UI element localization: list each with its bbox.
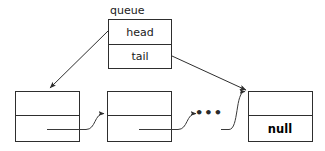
queue-tail-field-label: tail (131, 50, 148, 63)
queue-struct-name: queue (110, 4, 145, 17)
head-pointer-arrow (50, 31, 108, 88)
node-first-box (16, 92, 80, 142)
queue-struct: queue head tail (109, 4, 172, 69)
diagram-canvas: queue head tail null ••• (0, 0, 325, 151)
ellipsis-label: ••• (195, 105, 223, 120)
next-arrow-3 (221, 92, 245, 130)
queue-linked-list-diagram: queue head tail null ••• (0, 0, 325, 151)
node-last-null-label: null (268, 122, 292, 136)
queue-head-field-label: head (126, 26, 153, 39)
tail-pointer-arrow (172, 56, 246, 90)
node-first (16, 92, 80, 142)
node-second (108, 92, 172, 142)
node-second-box (108, 92, 172, 142)
node-last: null (249, 92, 313, 142)
